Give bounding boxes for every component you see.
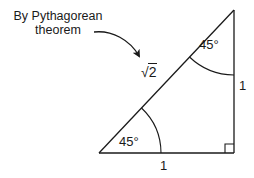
angle-arc-bottom-left	[142, 108, 162, 153]
pythagorean-annotation: By Pythagorean theorem	[8, 9, 108, 37]
radical-sign: √	[141, 65, 149, 79]
hypotenuse-line	[99, 10, 234, 153]
side-label-vertical: 1	[239, 79, 246, 92]
angle-label-bottom-left: 45°	[119, 135, 139, 148]
annotation-line-2: theorem	[8, 23, 108, 37]
side-label-horizontal: 1	[160, 159, 167, 172]
angle-arc-top	[190, 57, 235, 75]
hypotenuse-label: √2	[141, 63, 157, 79]
angle-label-top: 45°	[199, 38, 219, 51]
radicand: 2	[148, 63, 158, 79]
annotation-line-1: By Pythagorean	[8, 9, 108, 23]
right-angle-marker	[225, 144, 234, 153]
